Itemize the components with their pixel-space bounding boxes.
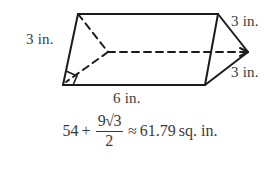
hidden-edge-apex-to-bottom <box>66 52 108 82</box>
dimension-label-left-edge: 3 in. <box>26 31 54 48</box>
answer-units: sq. in. <box>179 123 218 139</box>
answer-fraction-numerator: 9√3 <box>96 113 123 132</box>
dimension-label-bottom-edge: 6 in. <box>113 90 141 107</box>
dimension-label-right-bottom-edge: 3 in. <box>231 64 259 81</box>
hidden-edge-top-to-apex <box>78 14 108 52</box>
answer-fraction-denominator: 2 <box>105 132 113 150</box>
surface-area-answer: 54 + 9√3 2 ≈ 61.79 sq. in. <box>0 113 280 150</box>
answer-plus-sign: + <box>82 123 91 139</box>
edge-right-back <box>205 14 218 85</box>
right-angle-marker <box>66 71 77 85</box>
dimension-label-right-top-edge: 3 in. <box>231 13 259 30</box>
geometry-figure: 3 in. 3 in. 3 in. 6 in. 54 + 9√3 2 ≈ 61.… <box>0 0 280 174</box>
answer-approx-value: 61.79 <box>140 123 176 139</box>
answer-fraction: 9√3 2 <box>96 113 123 150</box>
answer-leading-term: 54 <box>63 123 79 139</box>
answer-approx-sign: ≈ <box>128 123 137 139</box>
